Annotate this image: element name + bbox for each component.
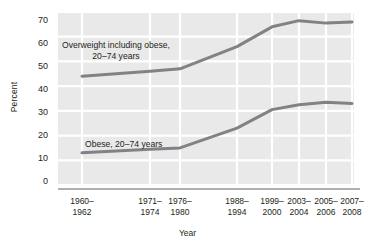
series-annotation-line1: Obese, 20–74 years <box>85 139 162 149</box>
x-tick-label: 1971–1974 <box>138 196 162 218</box>
x-tick-label: 1960–1962 <box>70 196 94 218</box>
series-annotation-overweight: Overweight including obese, 20–74 years <box>62 40 170 61</box>
x-tick-label-line2: 1980 <box>168 207 192 218</box>
chart-figure: Percent 70 60 50 40 30 20 10 0 Overweigh… <box>0 0 375 247</box>
x-tick-label-line1: 2003– <box>287 196 311 207</box>
x-tick-label-line2: 2008 <box>340 207 364 218</box>
x-tick-label-line1: 1988– <box>225 196 249 207</box>
x-tick-label-line2: 2006 <box>314 207 338 218</box>
x-axis-tick-labels: 1960–19621971–19741976–19801988–19941999… <box>0 196 375 226</box>
x-tick-label-line1: 1971– <box>138 196 162 207</box>
x-tick-label-line1: 2005– <box>314 196 338 207</box>
x-tick-label-line2: 2000 <box>260 207 284 218</box>
x-tick-label: 2007–2008 <box>340 196 364 218</box>
x-tick-label-line1: 1976– <box>168 196 192 207</box>
x-tick-label: 2003–2004 <box>287 196 311 218</box>
x-tick-label-line1: 1960– <box>70 196 94 207</box>
x-tick-label: 2005–2006 <box>314 196 338 218</box>
x-axis-title: Year <box>0 228 375 238</box>
x-tick-label: 1988–1994 <box>225 196 249 218</box>
x-tick-label-line2: 1962 <box>70 207 94 218</box>
x-tick-label-line2: 1994 <box>225 207 249 218</box>
x-tick-label: 1976–1980 <box>168 196 192 218</box>
series-annotation-obese: Obese, 20–74 years <box>85 139 162 150</box>
series-annotation-line2: 20–74 years <box>92 51 139 61</box>
x-tick-label: 1999–2000 <box>260 196 284 218</box>
series-annotation-line1: Overweight including obese, <box>62 40 170 50</box>
x-tick-label-line1: 1999– <box>260 196 284 207</box>
x-tick-label-line2: 1974 <box>138 207 162 218</box>
x-tick-label-line2: 2004 <box>287 207 311 218</box>
x-tick-label-line1: 2007– <box>340 196 364 207</box>
